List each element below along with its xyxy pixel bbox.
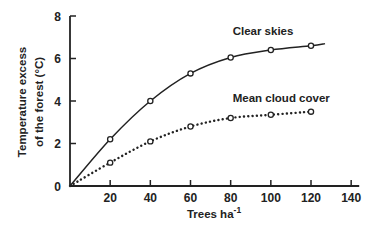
data-point-marker [268,112,273,117]
y-tick-label: 0 [54,180,61,194]
x-tick-label: 140 [341,191,361,205]
x-tick-label: 100 [261,191,281,205]
data-point-marker [148,98,153,103]
series-label: Clear skies [233,25,294,37]
y-tick-label: 4 [54,95,61,109]
x-tick-label: 60 [184,191,198,205]
x-tick-label: 80 [224,191,238,205]
series-line [70,112,311,186]
data-point-marker [268,47,273,52]
y-axis-title-line1: Temperature excess [16,47,28,157]
series-label: Mean cloud cover [233,92,331,104]
x-axis-title-text: Trees ha [187,208,234,220]
series-labels: Clear skiesMean cloud cover [233,25,331,104]
y-axis-ticks: 02468 [54,10,76,194]
y-axis-title-line2: of the forest (°C) [33,57,45,147]
line-chart: 02468 20406080100120140 Clear skiesMean … [0,0,384,226]
data-point-marker [188,71,193,76]
x-axis-ticks: 20406080100120140 [103,180,361,205]
series-mean-cloud-cover [70,109,314,186]
y-tick-label: 8 [54,10,61,24]
x-tick-label: 20 [103,191,117,205]
data-series [70,43,325,186]
data-point-marker [308,109,313,114]
x-tick-label: 120 [301,191,321,205]
x-axis-title: Trees ha-1 [187,205,242,220]
data-point-marker [108,137,113,142]
data-point-marker [228,115,233,120]
y-tick-label: 6 [54,52,61,66]
data-point-marker [228,55,233,60]
data-point-marker [188,124,193,129]
data-point-marker [148,139,153,144]
x-tick-label: 40 [144,191,158,205]
data-point-marker [108,160,113,165]
x-axis-title-superscript: -1 [234,205,242,215]
data-point-marker [308,43,313,48]
y-tick-label: 2 [54,137,61,151]
